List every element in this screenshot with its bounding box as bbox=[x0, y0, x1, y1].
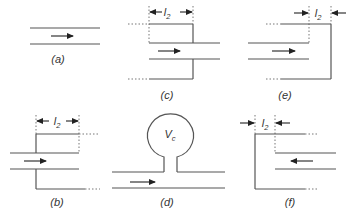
cavity-volume-label: Vc bbox=[164, 128, 175, 143]
panel-d-caption: (d) bbox=[160, 196, 174, 208]
panel-f: l2 (f) bbox=[240, 115, 336, 208]
dimension-label-l2: l2 bbox=[54, 115, 61, 130]
panel-d: Vc (d) bbox=[112, 114, 225, 208]
panel-f-caption: (f) bbox=[285, 196, 296, 208]
panel-e: l2 (e) bbox=[248, 6, 346, 101]
panel-c: l2 (c) bbox=[128, 6, 220, 101]
dimension-label-l2: l2 bbox=[164, 6, 171, 21]
dimension-label-l2: l2 bbox=[315, 7, 322, 22]
panel-b: l2 (b) bbox=[10, 115, 100, 208]
resonator-cavity bbox=[148, 114, 194, 172]
panel-e-caption: (e) bbox=[278, 89, 292, 101]
pipe-configurations-figure: (a) l2 (c) l2 (e) bbox=[0, 0, 349, 216]
panel-a: (a) bbox=[30, 28, 100, 65]
panel-c-caption: (c) bbox=[161, 89, 174, 101]
panel-b-caption: (b) bbox=[50, 196, 64, 208]
dimension-label-l2: l2 bbox=[262, 117, 269, 132]
panel-a-caption: (a) bbox=[51, 53, 65, 65]
